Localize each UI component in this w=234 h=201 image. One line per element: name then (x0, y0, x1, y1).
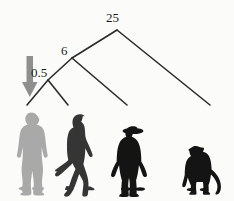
monkey-front-paw (187, 188, 195, 191)
monkey-hind-paw (200, 188, 208, 191)
node-label-0-5: 0.5 (31, 66, 47, 79)
node-label-root-25: 25 (106, 11, 119, 24)
modern-human-left-foot (19, 187, 31, 191)
chimpanzee-head-brow (123, 128, 144, 134)
monkey-head (189, 148, 203, 153)
node-label-6: 6 (61, 44, 68, 57)
modern-human-right-foot (32, 187, 44, 191)
chimpanzee-right-foot (135, 187, 145, 191)
phylogenetic-tree-figure (0, 0, 234, 201)
chimpanzee-left-foot (121, 187, 131, 191)
